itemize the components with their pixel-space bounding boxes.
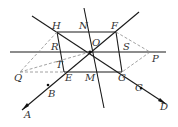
- point-O-dot: [88, 50, 91, 53]
- geometry-diagram: H N F O R S P Q T E M G B C A D: [0, 0, 178, 127]
- label-G: G: [118, 72, 126, 83]
- point-B-dot: [47, 84, 50, 87]
- dashed-PG: [122, 52, 150, 72]
- label-E: E: [64, 72, 73, 83]
- dashed-FP: [116, 32, 150, 52]
- label-F: F: [110, 20, 119, 31]
- label-C: C: [135, 82, 143, 93]
- label-D: D: [159, 101, 168, 112]
- label-H: H: [51, 20, 61, 31]
- label-N: N: [78, 20, 89, 31]
- label-S: S: [123, 41, 130, 52]
- label-R: R: [50, 41, 59, 52]
- label-M: M: [84, 72, 96, 83]
- label-Q: Q: [14, 72, 22, 83]
- label-A: A: [23, 109, 31, 120]
- label-O: O: [92, 37, 100, 48]
- label-B: B: [47, 88, 55, 99]
- label-P: P: [151, 53, 159, 64]
